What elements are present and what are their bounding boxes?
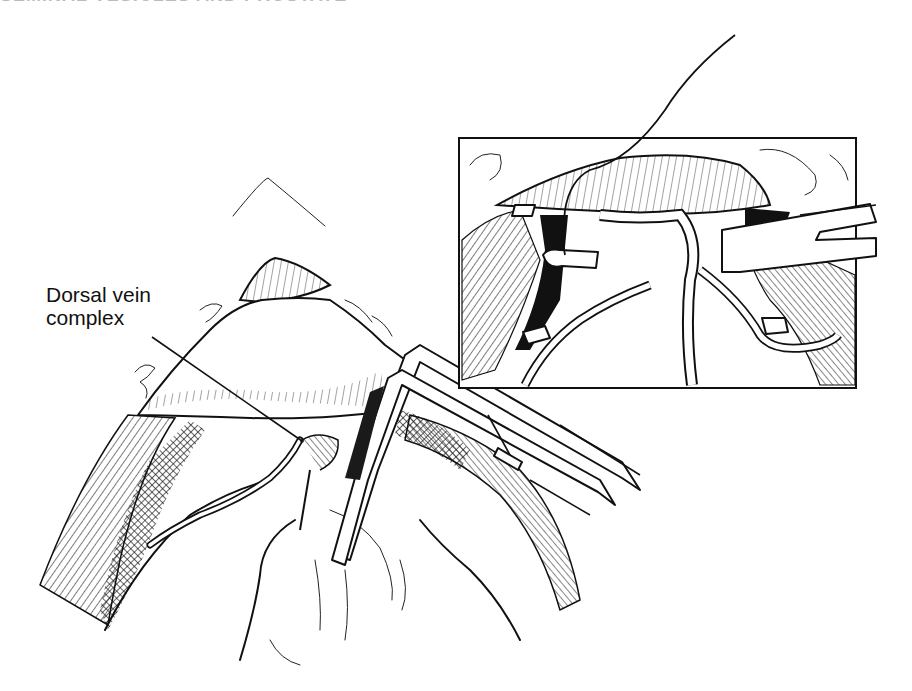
- fat-curl: [372, 316, 392, 336]
- symphysis-outline: [233, 178, 325, 226]
- leader-endpoint: [300, 439, 304, 443]
- tissue-lobe: [400, 560, 406, 610]
- tissue-contour: [240, 520, 295, 660]
- illustration-canvas: [0, 0, 912, 691]
- inset-tissue-tab: [512, 205, 535, 216]
- surgical-illustration: SEMINAL VESICLES AND PROSTATE: [0, 0, 912, 691]
- tissue-lobe: [345, 570, 348, 640]
- inset-detail: [459, 35, 876, 388]
- inset-tissue-tab: [762, 318, 788, 334]
- tissue-lobe: [315, 560, 320, 630]
- label-line-1: Dorsal vein: [46, 283, 151, 306]
- vein-trunk: [300, 470, 310, 530]
- tissue-lobe: [270, 640, 300, 665]
- dorsal-vein-complex-body: [302, 435, 338, 470]
- fat-curl: [200, 304, 222, 322]
- inset-needle-tip: [543, 250, 598, 268]
- pubic-cap: [240, 258, 330, 302]
- label-dorsal-vein-complex: Dorsal vein complex: [46, 283, 151, 329]
- fat-curl: [135, 365, 155, 398]
- label-line-2: complex: [46, 306, 151, 329]
- tissue-contour: [420, 520, 520, 640]
